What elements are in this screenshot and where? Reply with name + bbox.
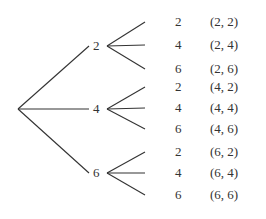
second-level-node-label: 6	[175, 188, 182, 202]
outcome-pair-label: (4, 2)	[210, 80, 238, 94]
second-level-node-label: 2	[175, 80, 182, 94]
second-level-node-label: 2	[175, 15, 182, 29]
second-level-node-label: 4	[175, 166, 182, 180]
second-level-node-label: 4	[175, 38, 182, 52]
branch-line-level2	[107, 152, 145, 173]
branch-line-level2	[107, 109, 145, 129]
outcome-pair-label: (6, 2)	[210, 145, 238, 159]
branch-line-level2	[107, 108, 145, 109]
second-level-node-label: 2	[175, 145, 182, 159]
first-level-node-label: 4	[93, 102, 100, 116]
outcome-pair-label: (2, 4)	[210, 38, 238, 52]
branch-line-level2	[107, 22, 145, 46]
branch-line-level2	[107, 173, 145, 195]
first-level-node-label: 6	[93, 166, 100, 180]
second-level-node-label: 4	[175, 101, 182, 115]
branch-line-level2	[107, 46, 145, 69]
outcome-pair-label: (4, 6)	[210, 122, 238, 136]
outcome-pair-label: (2, 6)	[210, 62, 238, 76]
first-level-node-label: 2	[93, 39, 100, 53]
outcome-pair-label: (2, 2)	[210, 15, 238, 29]
branch-line-level1	[18, 109, 89, 173]
second-level-node-label: 6	[175, 122, 182, 136]
branch-line-level1	[18, 46, 89, 109]
branch-line-level2	[107, 45, 145, 46]
outcome-pair-label: (4, 4)	[210, 101, 238, 115]
outcome-pair-label: (6, 6)	[210, 188, 238, 202]
outcome-pair-label: (6, 4)	[210, 166, 238, 180]
second-level-node-label: 6	[175, 62, 182, 76]
branch-line-level2	[107, 87, 145, 109]
